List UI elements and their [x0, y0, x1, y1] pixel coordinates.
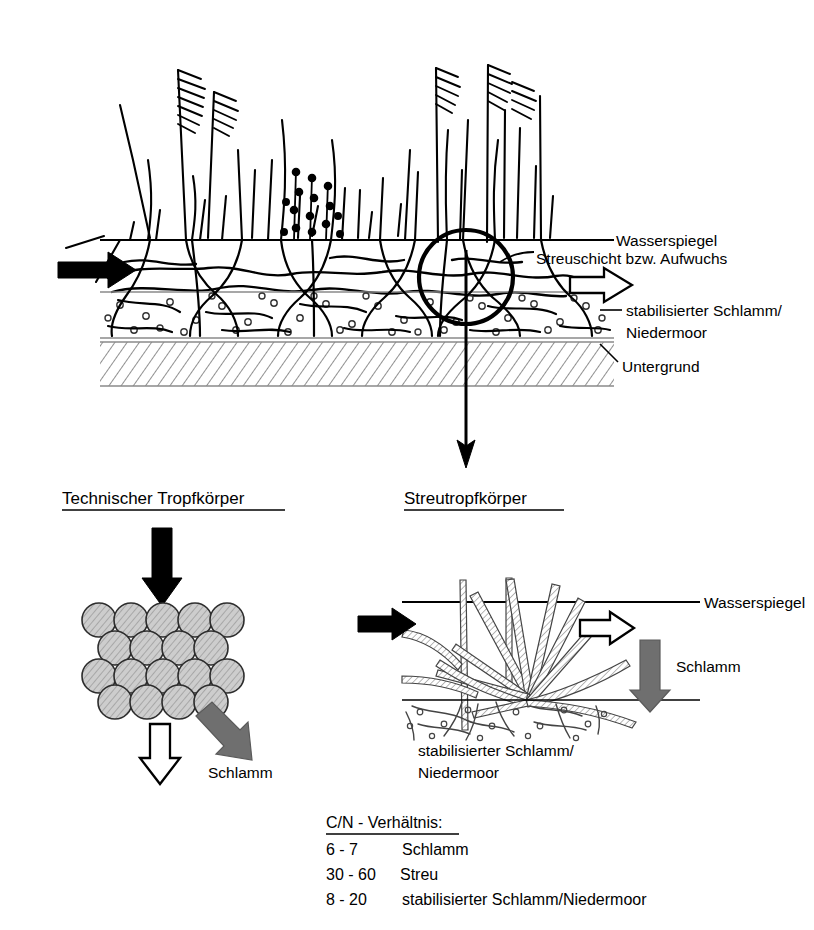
heading-technischer-tropfkoerper: Technischer Tropfkörper [62, 489, 245, 508]
label-schlamm-filter: Schlamm [208, 764, 273, 781]
cn-ratio: 8 - 20 [326, 891, 367, 908]
label-niedermoor-detail: Niedermoor [418, 764, 499, 781]
label-wasserspiegel-top: Wasserspiegel [616, 232, 717, 249]
label-stabilisierter-schlamm-top: stabilisierter Schlamm/ [626, 302, 783, 319]
label-stabilisierter-schlamm-detail: stabilisierter Schlamm/ [418, 742, 575, 759]
cn-legend-title: C/N - Verhältnis: [326, 814, 442, 831]
label-untergrund: Untergrund [622, 358, 700, 375]
sphere-stack [82, 603, 244, 719]
background [0, 0, 814, 930]
cn-material: Schlamm [402, 841, 469, 858]
label-niedermoor-top: Niedermoor [626, 324, 707, 341]
label-wasserspiegel-detail: Wasserspiegel [704, 594, 805, 611]
untergrund-layer [100, 342, 614, 386]
label-schlamm-detail: Schlamm [676, 658, 741, 675]
cn-material: Streu [400, 866, 438, 883]
cn-ratio: 6 - 7 [326, 841, 358, 858]
heading-streutropfkoerper: Streutropfkörper [404, 489, 527, 508]
label-streuschicht: Streuschicht bzw. Aufwuchs [536, 250, 728, 267]
cn-ratio: 30 - 60 [326, 866, 376, 883]
cn-material: stabilisierter Schlamm/Niedermoor [402, 891, 647, 908]
figure-canvas: Wasserspiegel Streuschicht bzw. Aufwuchs… [0, 0, 814, 930]
